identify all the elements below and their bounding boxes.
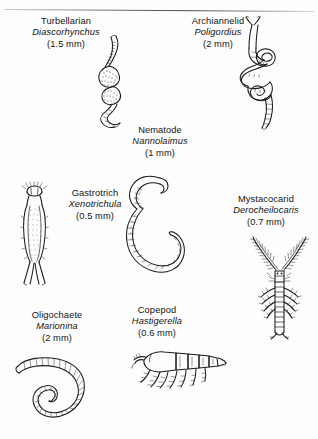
label-copepod: Copepod Hastigerella (0.6 mm) — [110, 305, 204, 339]
oligochaete-size: (2 mm) — [12, 333, 102, 344]
oligochaete-common-name: Oligochaete — [12, 310, 102, 321]
drawing-copepod — [130, 348, 226, 398]
label-nematode: Nematode Nannolaimus (1 mm) — [114, 125, 206, 159]
label-mystacocarid: Mystacocarid Derocheilocaris (0.7 mm) — [217, 194, 315, 228]
oligochaete-genus: Marionina — [12, 321, 102, 332]
label-oligochaete: Oligochaete Marionina (2 mm) — [12, 310, 102, 344]
copepod-genus: Hastigerella — [110, 316, 204, 327]
drawing-mystacocarid — [246, 232, 312, 340]
mystacocarid-size: (0.7 mm) — [217, 217, 315, 228]
nematode-common-name: Nematode — [114, 125, 206, 136]
copepod-common-name: Copepod — [110, 305, 204, 316]
drawing-gastrotrich — [16, 182, 62, 288]
nematode-size: (1 mm) — [114, 148, 206, 159]
drawing-archiannelid — [218, 14, 296, 132]
copepod-size: (0.6 mm) — [110, 328, 204, 339]
top-divider-rule — [4, 9, 314, 12]
drawing-nematode — [118, 168, 194, 280]
drawing-oligochaete — [12, 352, 96, 434]
turbellarian-common-name: Turbellarian — [18, 16, 114, 27]
drawing-turbellarian — [86, 32, 136, 132]
mystacocarid-common-name: Mystacocarid — [217, 194, 315, 205]
nematode-genus: Nannolaimus — [114, 136, 206, 147]
mystacocarid-genus: Derocheilocaris — [217, 205, 315, 216]
meiofauna-figure: Turbellarian Diascorhynchus (1.5 mm) — [0, 0, 318, 439]
